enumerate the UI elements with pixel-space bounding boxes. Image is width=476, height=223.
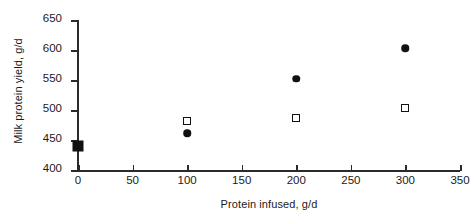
y-tick-label: 500 [43, 102, 62, 114]
y-tick-label: 400 [43, 162, 62, 174]
x-tick: 300 [405, 165, 407, 171]
y-tick: 550 [71, 80, 77, 82]
data-point-filled-circle [183, 130, 191, 138]
x-tick-label: 0 [75, 174, 81, 186]
x-tick-label: 300 [396, 174, 415, 186]
x-tick: 50 [133, 165, 135, 171]
data-point-open-square [292, 114, 300, 122]
x-axis-line [77, 170, 460, 172]
x-tick-label: 50 [126, 174, 139, 186]
x-tick-label: 100 [178, 174, 197, 186]
x-tick: 0 [78, 165, 80, 171]
x-tick: 350 [460, 165, 462, 171]
scatter-chart-figure: Milk protein yield, g/d 4004505005506006… [0, 0, 476, 223]
y-tick-label: 600 [43, 42, 62, 54]
data-point-filled-circle [402, 44, 410, 52]
x-tick: 250 [351, 165, 353, 171]
x-tick-label: 150 [232, 174, 251, 186]
x-tick: 100 [187, 165, 189, 171]
x-axis-title: Protein infused, g/d [78, 198, 460, 210]
y-axis-title: Milk protein yield, g/d [12, 11, 24, 171]
data-point-open-square [183, 117, 191, 125]
x-tick-label: 250 [341, 174, 360, 186]
x-tick-label: 200 [287, 174, 306, 186]
data-point-filled-circle [293, 75, 301, 83]
y-tick: 600 [71, 50, 77, 52]
y-tick: 650 [71, 20, 77, 22]
plot-area: 400450500550600650 050100150200250300350 [78, 20, 460, 170]
x-tick: 200 [296, 165, 298, 171]
x-tick: 150 [242, 165, 244, 171]
y-tick: 500 [71, 110, 77, 112]
y-tick-label: 650 [43, 12, 62, 24]
y-tick-label: 450 [43, 132, 62, 144]
y-tick-label: 550 [43, 72, 62, 84]
x-tick-label: 350 [450, 174, 469, 186]
data-point-control-filled-square [73, 141, 84, 152]
data-point-open-square [401, 104, 409, 112]
y-tick: 400 [71, 170, 77, 172]
